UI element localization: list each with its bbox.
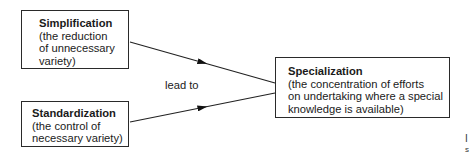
cropped-text-fragment: s <box>465 145 469 154</box>
node-standardization: Standardization (the control of necessar… <box>21 101 129 147</box>
node-title: Specialization <box>288 65 449 78</box>
node-specialization: Specialization (the concentration of eff… <box>275 57 450 118</box>
edge-label: lead to <box>165 79 199 91</box>
arrow-standardization-to-specialization <box>130 93 275 122</box>
node-simplification: Simplification (the reduction of unneces… <box>21 10 129 69</box>
node-description: (the reduction of unnecessary variety) <box>39 30 128 68</box>
node-title: Standardization <box>32 107 128 120</box>
arrow-simplification-to-specialization <box>130 42 275 83</box>
node-description: (the control of necessary variety) <box>32 120 128 145</box>
cropped-text-fragment: I <box>465 133 468 144</box>
node-description: (the concentration of efforts on underta… <box>288 78 449 116</box>
node-title: Simplification <box>39 17 128 30</box>
